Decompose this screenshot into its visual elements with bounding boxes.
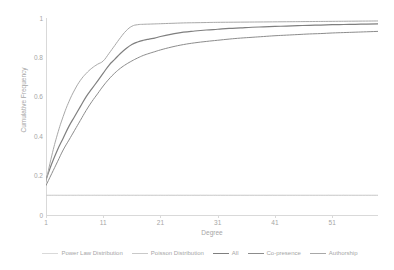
plot-area <box>46 18 378 215</box>
x-tick-mark <box>46 215 47 218</box>
legend-swatch-icon <box>310 253 326 254</box>
x-tick-mark <box>332 215 333 218</box>
x-tick-label: 21 <box>145 219 175 227</box>
x-tick-mark <box>160 215 161 218</box>
x-tick-label: 1 <box>31 219 61 227</box>
x-tick-mark <box>275 215 276 218</box>
series-line <box>46 31 378 185</box>
y-axis-title: Cumulative Frequency <box>20 30 28 170</box>
y-tick-label: 0 <box>3 212 43 219</box>
series-line <box>46 24 378 180</box>
legend-item[interactable]: Poisson Distribution <box>132 250 204 257</box>
x-axis-line <box>46 215 378 216</box>
legend-swatch-icon <box>132 253 148 254</box>
x-axis-title: Degree <box>46 229 378 237</box>
legend-label: Authorship <box>329 250 358 257</box>
chart-legend: Power Law DistributionPoisson Distributi… <box>30 247 370 259</box>
series-lines <box>46 18 378 215</box>
legend-swatch-icon <box>213 253 229 254</box>
legend-swatch-icon <box>42 253 58 254</box>
y-tick-label: 0.2 <box>3 172 43 179</box>
legend-item[interactable]: Power Law Distribution <box>42 250 122 257</box>
x-tick-label: 31 <box>203 219 233 227</box>
x-tick-mark <box>218 215 219 218</box>
x-tick-label: 41 <box>260 219 290 227</box>
legend-item[interactable]: Authorship <box>310 250 358 257</box>
legend-item[interactable]: Co-presence <box>248 250 301 257</box>
y-tick-label: 1 <box>3 15 43 22</box>
x-tick-label: 11 <box>88 219 118 227</box>
legend-label: All <box>232 250 239 257</box>
legend-item[interactable]: All <box>213 250 239 257</box>
x-tick-mark <box>103 215 104 218</box>
legend-label: Poisson Distribution <box>151 250 204 257</box>
legend-swatch-icon <box>248 253 264 254</box>
chart-container: 00.20.40.60.81 Cumulative Frequency Degr… <box>0 0 394 270</box>
legend-label: Power Law Distribution <box>61 250 122 257</box>
legend-label: Co-presence <box>267 250 301 257</box>
x-tick-label: 51 <box>317 219 347 227</box>
series-line <box>46 21 378 182</box>
